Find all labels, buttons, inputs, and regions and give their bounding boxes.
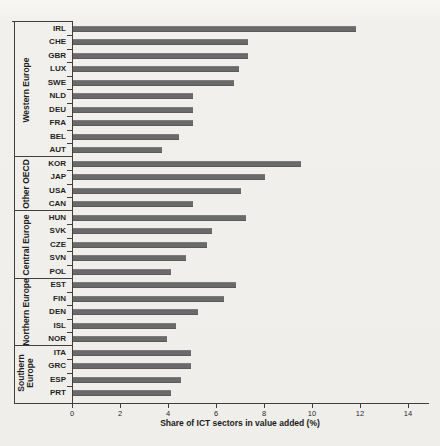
left-rule <box>14 21 15 404</box>
bar <box>73 350 191 356</box>
country-label: FRA <box>20 118 66 128</box>
x-tick <box>216 403 217 408</box>
category-tick <box>67 49 72 50</box>
country-label: FIN <box>20 294 66 304</box>
x-tick-label: 4 <box>156 409 180 418</box>
country-label: KOR <box>20 159 66 169</box>
x-tick <box>312 403 313 408</box>
category-tick <box>67 224 72 225</box>
category-tick <box>67 143 72 144</box>
country-label: LUX <box>20 64 66 74</box>
bar <box>73 323 176 329</box>
x-axis <box>14 403 429 404</box>
country-label: ISL <box>20 321 66 331</box>
x-tick <box>72 403 73 408</box>
x-tick-label: 6 <box>204 409 228 418</box>
bar <box>73 363 191 369</box>
category-tick <box>67 265 72 266</box>
x-tick-label: 0 <box>60 409 84 418</box>
country-label: CAN <box>20 199 66 209</box>
bar <box>73 134 179 140</box>
bar <box>73 80 234 86</box>
country-label: SWE <box>20 78 66 88</box>
top-rule <box>12 21 73 22</box>
group-separator <box>14 210 73 211</box>
bar <box>73 39 248 45</box>
category-tick <box>67 184 72 185</box>
group-separator <box>14 345 73 346</box>
bar <box>73 309 198 315</box>
category-tick <box>67 305 72 306</box>
country-label: NLD <box>20 91 66 101</box>
category-tick <box>67 251 72 252</box>
group-separator <box>14 156 73 157</box>
bar <box>73 228 212 234</box>
country-label: EST <box>20 280 66 290</box>
country-label: HUN <box>20 213 66 223</box>
country-label: DEU <box>20 105 66 115</box>
bar <box>73 53 248 59</box>
x-tick-label: 14 <box>396 409 420 418</box>
country-label: SVK <box>20 226 66 236</box>
bar <box>73 188 241 194</box>
bar <box>73 107 193 113</box>
country-label: CHE <box>20 37 66 47</box>
category-tick <box>67 332 72 333</box>
category-tick <box>67 292 72 293</box>
bar <box>73 255 186 261</box>
bar <box>73 93 193 99</box>
category-tick <box>67 116 72 117</box>
x-tick-label: 10 <box>300 409 324 418</box>
bar <box>73 377 181 383</box>
bar <box>73 336 167 342</box>
bar <box>73 66 239 72</box>
country-label: DEN <box>20 307 66 317</box>
country-label: GBR <box>20 51 66 61</box>
x-tick <box>120 403 121 408</box>
country-label: AUT <box>20 145 66 155</box>
category-axis <box>72 21 73 404</box>
category-tick <box>67 35 72 36</box>
category-tick <box>67 373 72 374</box>
category-tick <box>67 238 72 239</box>
category-tick <box>67 319 72 320</box>
category-tick <box>67 62 72 63</box>
category-tick <box>67 386 72 387</box>
bar <box>73 269 171 275</box>
country-label: POL <box>20 267 66 277</box>
country-label: GRC <box>20 361 66 371</box>
bar <box>73 390 171 396</box>
category-tick <box>67 197 72 198</box>
x-tick <box>360 403 361 408</box>
country-label: ITA <box>20 348 66 358</box>
x-tick-label: 8 <box>252 409 276 418</box>
x-tick-label: 12 <box>348 409 372 418</box>
country-label: SVN <box>20 253 66 263</box>
bar <box>73 242 207 248</box>
country-label: IRL <box>20 24 66 34</box>
country-label: NOR <box>20 334 66 344</box>
x-tick <box>408 403 409 408</box>
bar <box>73 120 193 126</box>
country-label: USA <box>20 186 66 196</box>
x-tick-label: 2 <box>108 409 132 418</box>
bar <box>73 201 193 207</box>
country-label: CZE <box>20 240 66 250</box>
x-axis-title: Share of ICT sectors in value added (%) <box>120 418 360 428</box>
bar <box>73 161 301 167</box>
category-tick <box>67 89 72 90</box>
category-tick <box>67 76 72 77</box>
category-tick <box>67 103 72 104</box>
country-label: BEL <box>20 132 66 142</box>
bar <box>73 147 162 153</box>
x-tick <box>264 403 265 408</box>
category-tick <box>67 130 72 131</box>
bar-chart: Share of ICT sectors in value added (%) … <box>0 0 440 446</box>
category-tick <box>67 170 72 171</box>
country-label: JAP <box>20 172 66 182</box>
bar <box>73 296 224 302</box>
country-label: ESP <box>20 375 66 385</box>
bar <box>73 215 246 221</box>
bar <box>73 174 265 180</box>
x-tick <box>168 403 169 408</box>
